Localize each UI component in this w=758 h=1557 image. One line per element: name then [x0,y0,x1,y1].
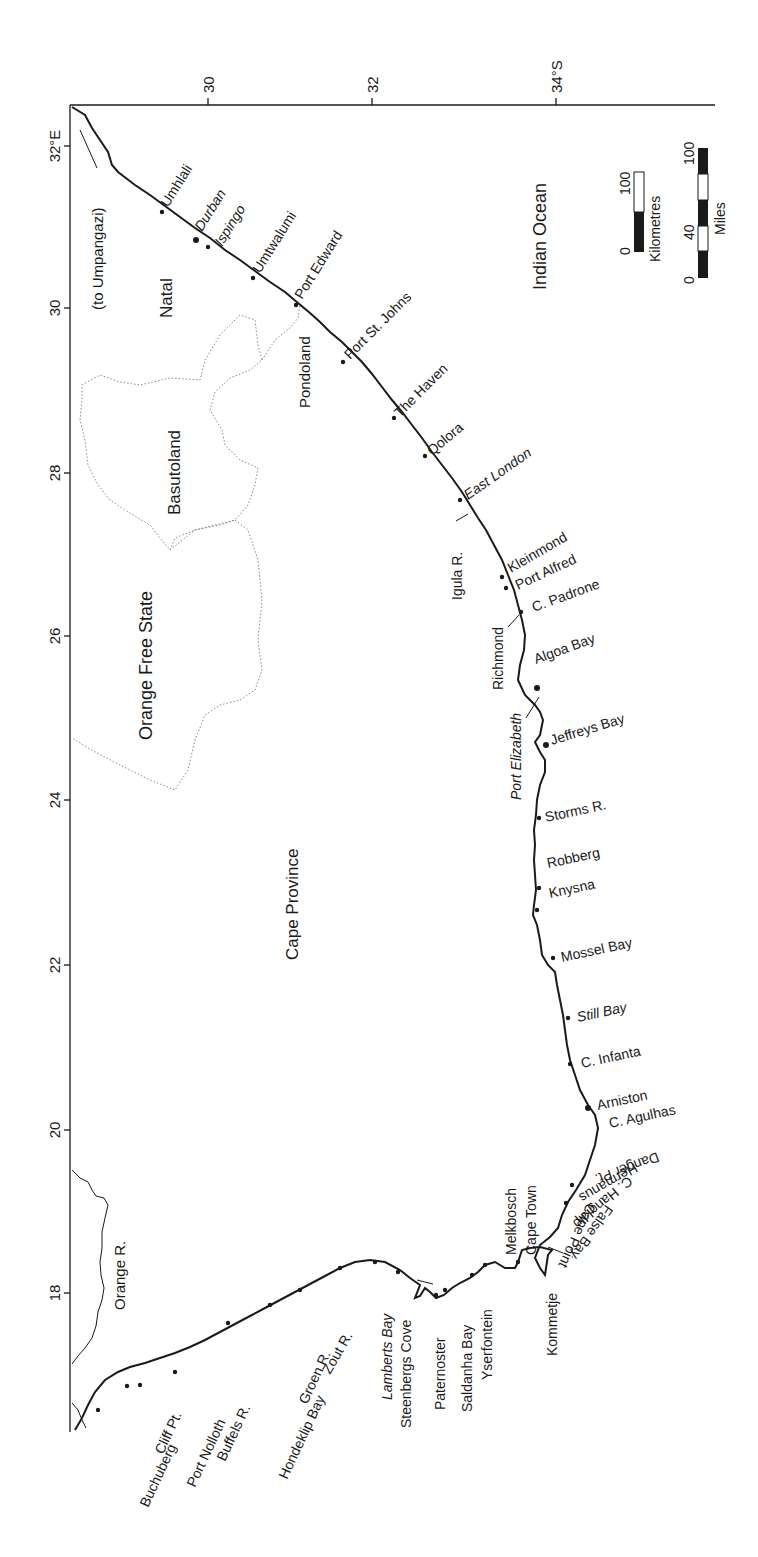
region-pondoland: Pondoland [296,336,313,408]
miles-min-label: 0 [681,276,697,284]
scale-bar-km: 0 100 Kilometres [617,171,663,262]
miles-max-label: 100 [681,141,697,165]
place-algoa-bay: Algoa Bay [532,630,597,667]
place-still-bay: Still Bay [575,999,629,1025]
lat-tick-32: 32 [364,76,381,93]
place-the-haven: The Haven [391,360,451,420]
region-natal: Natal [157,278,176,318]
place-port-elizabeth: Port Elizabeth [508,713,524,800]
lon-tick-28: 28 [46,465,63,482]
place-jeffreys-bay: Jeffreys Bay [548,710,626,748]
place-richmond: Richmond [490,627,506,690]
region-cape-province: Cape Province [283,848,302,960]
place-melkbosch: Melkbosch [503,1188,519,1255]
orange-river-label: Orange R. [111,1241,128,1310]
scale-bar-miles: 0 40 100 Miles [681,141,728,284]
place-storms-r: Storms R. [543,796,607,825]
to-umpangazi-label: (to Umpangazi) [89,207,106,310]
lon-tick-22: 22 [46,957,63,974]
place-paternoster: Paternoster [432,1337,448,1410]
place-robberg: Robberg [545,844,601,871]
place-kommetje: Kommetje [544,1293,560,1356]
place-igula-r: Igula R. [449,552,465,600]
west-coast-labels: Cape Town Melkbosch Yserfontein Saldanha… [136,1185,539,1509]
miles-title: Miles [712,202,728,235]
place-knysna: Knysna [547,876,596,901]
lon-tick-30: 30 [46,300,63,317]
region-basutoland: Basutoland [165,430,184,515]
place-lamberts-bay: Lamberts Bay [379,1313,395,1400]
place-port-edward: Port Edward [291,228,345,302]
orange-river [72,1170,108,1364]
lon-tick-24: 24 [46,792,63,809]
km-max-label: 100 [617,171,633,195]
region-orange-free-state: Orange Free State [136,591,156,740]
lon-tick-26: 26 [46,628,63,645]
place-cape-town: Cape Town [523,1185,539,1255]
km-title: Kilometres [647,196,663,262]
place-c-infanta: C. Infanta [579,1043,642,1071]
east-coast-labels: Umhlali Durban Ispingo Umtwalumi Port Ed… [157,162,626,800]
latitude-tick-labels: 30 32 34°S [200,60,565,93]
lon-tick-18: 18 [46,1285,63,1302]
orange-free-state-border [72,520,262,790]
natal-border [262,305,300,360]
province-borders [72,305,300,790]
region-labels: Natal Basutoland Orange Free State Cape … [89,183,550,1310]
place-yserfontein: Yserfontein [479,1309,495,1380]
lon-tick-20: 20 [46,1122,63,1139]
place-saldanha-bay: Saldanha Bay [459,1325,475,1412]
place-hondeklip-bay: Hondeklip Bay [275,1393,328,1482]
place-port-st-johns: Port St. Johns [341,289,414,362]
indian-ocean-label: Indian Ocean [530,183,550,290]
lat-tick-34s: 34°S [548,60,565,93]
miles-mid-label: 40 [681,224,697,240]
longitude-tick-labels: 32°E 30 28 26 24 22 20 18 [46,130,63,1302]
south-coast-labels: Storms R. Robberg Knysna Mossel Bay Stil… [543,796,677,1356]
map-canvas: 30 32 34°S 32°E 30 28 26 24 22 20 18 [0,0,758,1557]
place-east-london: East London [461,444,535,502]
place-umtwalumi: Umtwalumi [249,208,299,275]
lat-tick-30: 30 [200,76,217,93]
place-mossel-bay: Mossel Bay [559,934,633,965]
place-steenbergs-cove: Steenbergs Cove [398,1320,414,1428]
place-umhlali: Umhlali [157,162,195,210]
place-qolora: Qolora [424,419,467,458]
lon-tick-32e: 32°E [46,130,63,163]
km-min-label: 0 [617,247,633,255]
